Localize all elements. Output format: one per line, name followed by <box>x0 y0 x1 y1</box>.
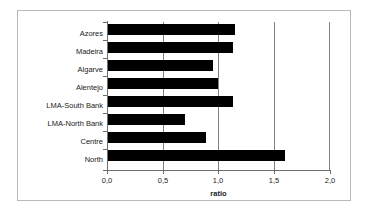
y-axis-label-alentejo: Alentejo <box>76 83 103 92</box>
bar-lma-north-bank <box>107 114 185 125</box>
x-axis-title: ratio <box>107 189 330 198</box>
y-axis-label-azores: Azores <box>80 29 103 38</box>
y-axis-tick <box>103 76 107 77</box>
bar-north <box>107 150 285 161</box>
gridline-3 <box>274 22 275 170</box>
y-axis-tick <box>103 95 107 96</box>
x-axis-tick <box>330 171 331 174</box>
x-axis-tick <box>107 171 108 174</box>
y-axis-tick <box>103 58 107 59</box>
x-axis-label-3: 1,5 <box>261 176 287 185</box>
y-axis-label-algarve: Algarve <box>78 65 103 74</box>
y-axis-tick <box>103 22 107 23</box>
y-axis-tick <box>103 131 107 132</box>
chart-figure: Azores Madeira Algarve Alentejo LMA-Sout… <box>0 0 369 212</box>
y-axis-tick <box>103 40 107 41</box>
y-axis-tick-labels: Azores Madeira Algarve Alentejo LMA-Sout… <box>0 0 103 212</box>
bar-centre <box>107 132 206 143</box>
x-axis-label-2: 1,0 <box>205 176 231 185</box>
x-axis-label-1: 0,5 <box>150 176 176 185</box>
x-axis-tick <box>163 171 164 174</box>
bar-lma-south-bank <box>107 96 233 107</box>
bar-azores <box>107 24 235 35</box>
y-axis-label-madeira: Madeira <box>76 47 103 56</box>
y-axis-label-centre: Centre <box>80 137 103 146</box>
y-axis-label-north: North <box>85 155 103 164</box>
x-axis-label-0: 0,0 <box>94 176 120 185</box>
gridline-4 <box>329 22 330 170</box>
y-axis-label-lma-north-bank: LMA-North Bank <box>48 119 103 128</box>
y-axis-tick <box>103 149 107 150</box>
bar-alentejo <box>107 78 218 89</box>
y-axis-label-lma-south-bank: LMA-South Bank <box>46 101 103 110</box>
bar-madeira <box>107 42 233 53</box>
bar-algarve <box>107 60 213 71</box>
y-axis-tick <box>103 113 107 114</box>
x-axis-tick <box>218 171 219 174</box>
x-axis-line <box>107 170 331 171</box>
y-axis-line <box>107 21 108 171</box>
plot-area <box>107 22 330 170</box>
x-axis-tick <box>274 171 275 174</box>
x-axis-label-4: 2,0 <box>317 176 343 185</box>
